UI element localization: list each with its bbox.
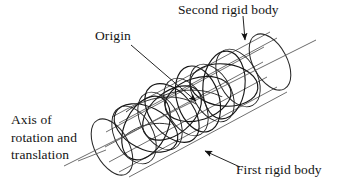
label-axis-line-3: translation [11, 146, 77, 164]
label-axis-line-1: Axis of [11, 111, 77, 129]
label-axis-line-2: rotation and [11, 129, 77, 147]
label-origin: Origin [95, 27, 131, 45]
label-second-rigid-body: Second rigid body [178, 1, 279, 19]
first-rigid-body-lobes [106, 49, 248, 162]
rigid-body-screw-axis-figure: Second rigid body Origin First rigid bod… [0, 0, 348, 187]
leader-second-rigid-body [243, 16, 245, 40]
second-rigid-body-lobes [112, 61, 260, 168]
leader-first-rigid-body [205, 151, 240, 167]
label-first-rigid-body: First rigid body [236, 161, 322, 179]
axis-of-rotation-line [64, 40, 316, 166]
label-axis-of-rotation-and-translation: Axis of rotation and translation [11, 111, 77, 164]
